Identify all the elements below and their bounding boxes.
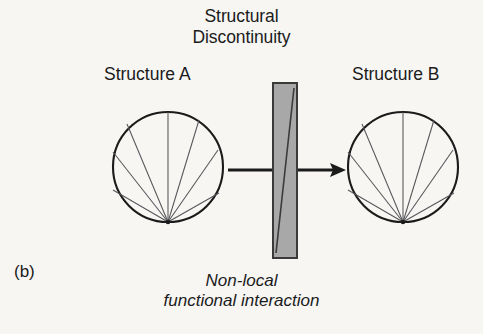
diagram-caption-line1: Non-local [0,271,483,291]
structural-discontinuity-barrier [273,83,297,258]
diagram-caption: Non-local functional interaction [0,271,483,311]
structure-a-label: Structure A [104,64,191,85]
structure-a-vertex [166,220,171,225]
diagram-caption-line2: functional interaction [0,291,483,311]
diagram-title-line2: Discontinuity [0,27,483,48]
panel-label: (b) [14,262,35,282]
structure-a-group [113,112,223,224]
structure-b-label: Structure B [352,64,440,85]
diagram-title: Structural Discontinuity [0,6,483,47]
diagram-title-line1: Structural [0,6,483,27]
structure-b-group [348,112,458,224]
structure-b-vertex [401,220,406,225]
